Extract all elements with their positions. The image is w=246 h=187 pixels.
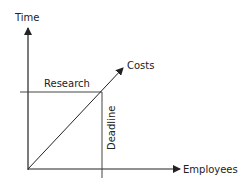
costs-label: Costs [127,60,154,71]
research-label: Research [44,78,90,89]
x-axis-label: Employees [183,164,238,175]
y-axis-label: Time [14,12,39,23]
diagram-canvas: Time Employees Research Deadline Costs [0,0,246,187]
deadline-label: Deadline [106,106,117,150]
